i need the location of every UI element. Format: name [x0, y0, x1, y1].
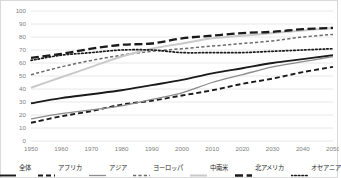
legend-item-north-america[interactable]: 北アメリカ [235, 165, 285, 172]
legend-swatch-oceania [291, 165, 308, 172]
x-tick-label: 2020 [236, 145, 250, 152]
legend-swatch-africa [38, 165, 55, 172]
x-tick-label: 2000 [175, 145, 189, 152]
series-line-europe [31, 34, 333, 74]
legend-label-latin-america: 中南米 [210, 165, 228, 171]
legend-swatch-north-america [235, 165, 252, 172]
y-tick-label: 10 [19, 124, 26, 131]
series-line-asia [31, 57, 333, 119]
y-tick-label: 100 [16, 7, 27, 14]
legend-swatch-world [0, 165, 16, 172]
legend-item-europe[interactable]: ヨーロッパ [133, 165, 183, 172]
legend-item-oceania[interactable]: オセアニア [291, 165, 341, 172]
x-tick-label: 2030 [266, 145, 280, 152]
y-tick-label: 0 [23, 137, 27, 144]
legend-label-africa: アフリカ [58, 165, 82, 171]
legend-label-asia: アジア [109, 165, 127, 171]
x-tick-label: 1970 [85, 145, 99, 152]
y-tick-label: 40 [19, 85, 26, 92]
legend-item-world[interactable]: 全体 [0, 165, 31, 172]
chart-legend: 全体アフリカアジアヨーロッパ中南米北アメリカオセアニア [1, 158, 339, 178]
y-tick-label: 50 [19, 72, 26, 79]
y-tick-label: 70 [19, 46, 26, 53]
x-tick-label: 2050 [326, 145, 339, 152]
x-tick-label: 1960 [54, 145, 68, 152]
x-tick-label: 1980 [115, 145, 129, 152]
x-tick-label: 1950 [24, 145, 38, 152]
legend-label-world: 全体 [19, 165, 31, 171]
legend-label-europe: ヨーロッパ [153, 165, 183, 171]
y-axis-tick-labels: 0102030405060708090100 [16, 7, 27, 144]
y-tick-label: 30 [19, 98, 26, 105]
series-line-africa [31, 67, 333, 123]
x-axis-tick-labels: 1950196019701980199020002010202020302040… [24, 145, 339, 152]
y-tick-label: 80 [19, 33, 26, 40]
legend-item-asia[interactable]: アジア [89, 165, 127, 172]
x-tick-label: 2010 [205, 145, 219, 152]
legend-swatch-asia [89, 165, 106, 172]
x-tick-label: 2040 [296, 145, 310, 152]
legend-swatch-latin-america [190, 165, 207, 172]
data-series-group [31, 28, 333, 123]
legend-item-africa[interactable]: アフリカ [38, 165, 82, 172]
legend-swatch-europe [133, 165, 150, 172]
y-tick-label: 60 [19, 59, 26, 66]
x-tick-label: 1990 [145, 145, 159, 152]
line-chart-svg: 0102030405060708090100 19501960197019801… [1, 1, 339, 157]
legend-item-latin-america[interactable]: 中南米 [190, 165, 228, 172]
legend-label-oceania: オセアニア [311, 165, 341, 171]
y-tick-label: 90 [19, 20, 26, 27]
y-tick-label: 20 [19, 111, 26, 118]
chart-plot-area: 0102030405060708090100 19501960197019801… [1, 1, 339, 157]
legend-label-north-america: 北アメリカ [255, 165, 285, 171]
